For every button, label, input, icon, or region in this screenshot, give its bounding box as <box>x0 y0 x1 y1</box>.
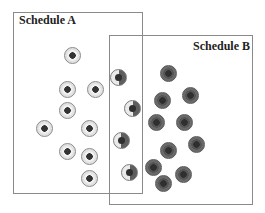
light-node-icon <box>59 143 76 160</box>
dark-node-icon <box>155 175 172 192</box>
split-node-icon <box>124 100 141 117</box>
light-node-icon <box>59 102 76 119</box>
dark-node-icon <box>175 166 192 183</box>
dark-node-icon <box>188 136 205 153</box>
light-node-icon <box>81 170 98 187</box>
split-node-icon <box>110 69 127 86</box>
light-node-icon <box>36 120 53 137</box>
light-node-icon <box>64 47 81 64</box>
dark-node-icon <box>154 92 171 109</box>
dark-node-icon <box>182 87 199 104</box>
dark-node-icon <box>160 142 177 159</box>
light-node-icon <box>81 120 98 137</box>
dark-node-icon <box>148 114 165 131</box>
dark-node-icon <box>145 159 162 176</box>
light-node-icon <box>81 148 98 165</box>
schedule-b-label: Schedule B <box>193 39 250 54</box>
schedule-a-label: Schedule A <box>19 13 76 28</box>
light-node-icon <box>59 81 76 98</box>
split-node-icon <box>113 132 130 149</box>
light-node-icon <box>87 81 104 98</box>
split-node-icon <box>121 164 138 181</box>
dark-node-icon <box>176 114 193 131</box>
dark-node-icon <box>160 65 177 82</box>
